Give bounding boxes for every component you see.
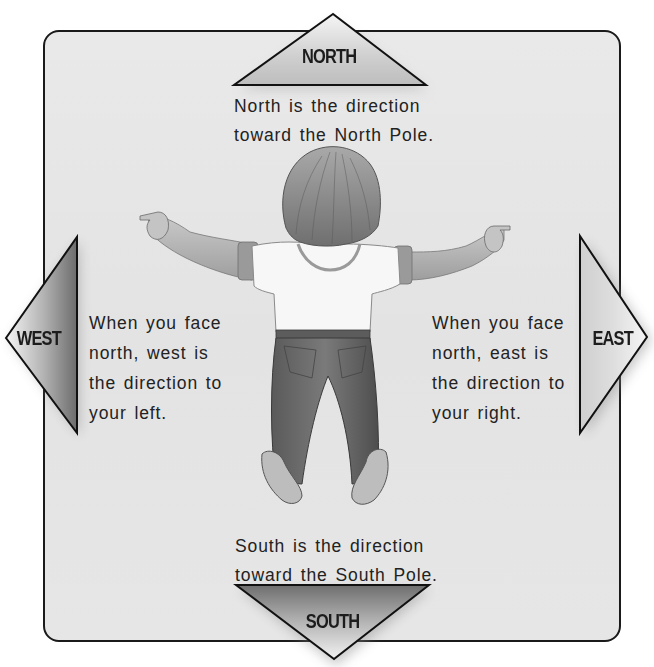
south-description-line: toward the South Pole.: [235, 561, 438, 590]
left-hand: [140, 212, 169, 239]
east-label: EAST: [592, 327, 632, 350]
north-label: NORTH: [302, 45, 356, 68]
t-shirt: [252, 242, 400, 339]
south-description-line: South is the direction: [235, 532, 438, 561]
north-description-line: North is the direction: [234, 92, 434, 121]
south-label: SOUTH: [306, 610, 359, 633]
west-label: WEST: [17, 327, 61, 350]
hair: [283, 147, 381, 246]
child-figure-illustration: [136, 140, 516, 520]
right-hand: [484, 226, 510, 252]
south-description: South is the direction toward the South …: [235, 532, 438, 590]
